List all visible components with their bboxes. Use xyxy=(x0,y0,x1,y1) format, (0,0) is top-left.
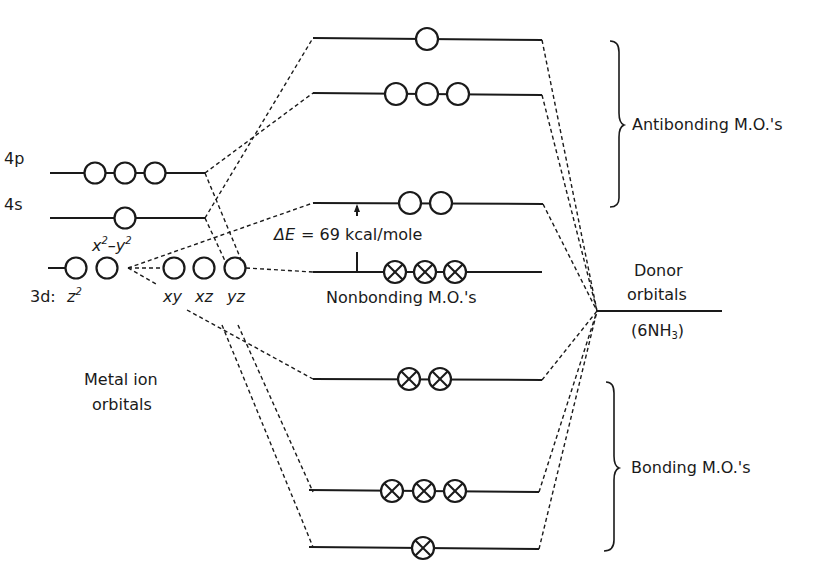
label-3d: 3d: xyxy=(30,287,56,306)
orbital-empty-icon xyxy=(447,83,469,105)
metal-level-4p: 4p xyxy=(4,149,205,184)
label-x2-y2: x2–y2 xyxy=(91,235,132,255)
orbital-empty-icon xyxy=(145,163,166,184)
orbital-empty-icon xyxy=(416,28,438,50)
label-metal-ion-orbitals-line1: Metal ion xyxy=(84,370,158,389)
donor-correlation-lines xyxy=(539,40,597,549)
orbital-filled-icon xyxy=(381,480,403,502)
orbital-filled-icon xyxy=(414,261,436,283)
orbital-empty-icon xyxy=(164,258,185,279)
orbital-empty-icon xyxy=(66,258,87,279)
orbital-empty-icon xyxy=(385,83,407,105)
orbital-empty-icon xyxy=(115,163,136,184)
donor-orbitals-level: Donor orbitals (6NH3) xyxy=(597,261,722,341)
label-metal-ion-orbitals-line2: orbitals xyxy=(92,395,152,414)
label-yz: yz xyxy=(226,287,245,306)
label-bonding: Bonding M.O.'s xyxy=(631,458,751,477)
orbital-empty-icon xyxy=(97,258,118,279)
arrow-up-icon xyxy=(354,204,360,212)
mo-bonding-a1g xyxy=(309,537,539,559)
orbital-filled-icon xyxy=(444,480,466,502)
orbital-empty-icon xyxy=(115,208,136,229)
mo-energy-diagram: 4p 4s 3d: z2 x2–y2 xy xz yz Metal ion or… xyxy=(0,0,840,576)
orbital-empty-icon xyxy=(416,83,438,105)
metal-correlation-lines xyxy=(128,38,313,547)
orbital-empty-icon xyxy=(225,258,246,279)
label-nonbonding: Nonbonding M.O.'s xyxy=(326,288,477,307)
orbital-filled-icon xyxy=(398,368,420,390)
mo-antibonding-a1g xyxy=(313,28,542,50)
orbital-filled-icon xyxy=(413,480,435,502)
orbital-filled-icon xyxy=(412,537,434,559)
label-z2: z2 xyxy=(66,286,82,306)
label-4s: 4s xyxy=(4,195,23,214)
label-delta-e: ΔE= 69 kcal/mole xyxy=(272,225,422,244)
mo-bonding-t1u xyxy=(309,480,539,502)
orbital-filled-icon xyxy=(444,261,466,283)
label-xy: xy xyxy=(162,287,182,306)
orbital-filled-icon xyxy=(384,261,406,283)
mo-bonding-eg xyxy=(313,368,542,390)
mo-antibonding-t1u xyxy=(313,83,542,105)
label-donor-line1: Donor xyxy=(634,261,683,280)
orbital-empty-icon xyxy=(399,192,421,214)
bonding-brace: Bonding M.O.'s xyxy=(604,382,751,551)
metal-level-4s: 4s xyxy=(4,195,205,229)
label-antibonding: Antibonding M.O.'s xyxy=(632,115,783,134)
orbital-filled-icon xyxy=(429,368,451,390)
orbital-empty-icon xyxy=(194,258,215,279)
label-xz: xz xyxy=(194,287,213,306)
mo-nonbonding-t2g: Nonbonding M.O.'s xyxy=(313,261,542,307)
mo-antibonding-eg xyxy=(313,192,543,214)
orbital-empty-icon xyxy=(430,192,452,214)
orbital-empty-icon xyxy=(85,163,106,184)
label-4p: 4p xyxy=(4,149,24,168)
label-donor-line2: orbitals xyxy=(627,285,687,304)
antibonding-brace: Antibonding M.O.'s xyxy=(610,41,783,207)
label-ligand: (6NH3) xyxy=(631,321,684,341)
metal-level-3d: 3d: z2 x2–y2 xy xz yz xyxy=(30,235,246,306)
